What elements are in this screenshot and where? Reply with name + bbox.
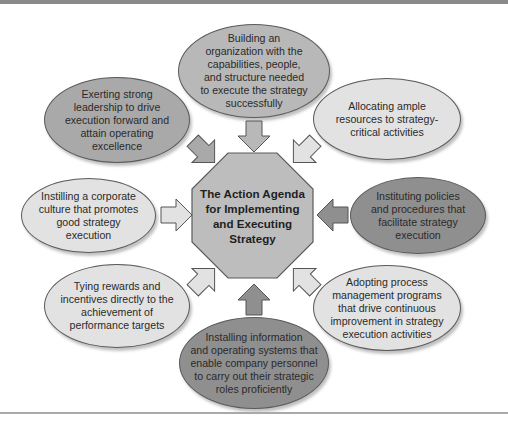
node-left: Instilling a corporate culture that prom… <box>21 178 156 253</box>
node-line: Instilling a corporate <box>39 190 139 203</box>
node-line: good strategy <box>39 216 139 229</box>
node-line: to execute the strategy <box>200 84 307 97</box>
background-bleed-text <box>360 358 500 408</box>
node-line: Installing information <box>190 331 317 344</box>
node-line: execution <box>371 229 465 242</box>
node-line: enable company personnel <box>190 357 317 370</box>
node-line: execution activities <box>330 328 443 341</box>
node-bottom: Installing information and operating sys… <box>179 317 329 409</box>
node-line: culture that promotes <box>39 203 139 216</box>
node-line: critical activities <box>336 126 438 139</box>
node-line: attain operating <box>65 127 169 140</box>
node-line: and structure needed <box>200 71 307 84</box>
node-line: resources to strategy- <box>336 113 438 126</box>
node-line: incentives directly to the <box>60 293 173 306</box>
node-line: roles proficiently <box>190 383 317 396</box>
node-line: organization with the <box>200 45 307 58</box>
arrow-left-icon <box>315 197 349 233</box>
node-line: Tying rewards and <box>60 280 173 293</box>
node-bottom-right: Adopting process management programs tha… <box>313 265 461 351</box>
center-line: for Implementing <box>200 201 305 216</box>
node-line: achievement of <box>60 306 173 319</box>
node-line: management programs <box>330 289 443 302</box>
node-line: execution forward and <box>65 114 169 127</box>
bottom-divider <box>0 412 508 414</box>
node-line: and operating systems that <box>190 344 317 357</box>
node-line: improvement in strategy <box>330 315 443 328</box>
node-line: Instituting policies <box>371 190 465 203</box>
node-line: execution <box>39 229 139 242</box>
node-bottom-left: Tying rewards and incentives directly to… <box>44 264 190 348</box>
arrow-right-icon <box>160 197 194 233</box>
center-line: Strategy <box>200 231 305 246</box>
node-top-left: Exerting strong leadership to drive exec… <box>44 77 190 163</box>
node-line: and procedures that <box>371 203 465 216</box>
node-line: Exerting strong <box>65 88 169 101</box>
node-line: to carry out their strategic <box>190 370 317 383</box>
node-line: Adopting process <box>330 276 443 289</box>
arrow-up-icon <box>236 282 272 316</box>
center-line: The Action Agenda <box>200 186 305 201</box>
node-right: Instituting policies and procedures that… <box>350 177 486 254</box>
node-line: facilitate strategy <box>371 216 465 229</box>
node-line: successfully <box>200 97 307 110</box>
node-line: capabilities, people, <box>200 58 307 71</box>
node-line: Allocating ample <box>336 100 438 113</box>
node-top-right: Allocating ample resources to strategy- … <box>313 78 461 160</box>
node-line: Building an <box>200 32 307 45</box>
node-line: performance targets <box>60 319 173 332</box>
node-line: excellence <box>65 140 169 153</box>
node-line: that drive continuous <box>330 302 443 315</box>
arrow-down-icon <box>236 120 272 154</box>
node-line: leadership to drive <box>65 101 169 114</box>
center-line: and Executing <box>200 216 305 231</box>
top-border <box>0 0 508 4</box>
node-top: Building an organization with the capabi… <box>178 24 330 118</box>
